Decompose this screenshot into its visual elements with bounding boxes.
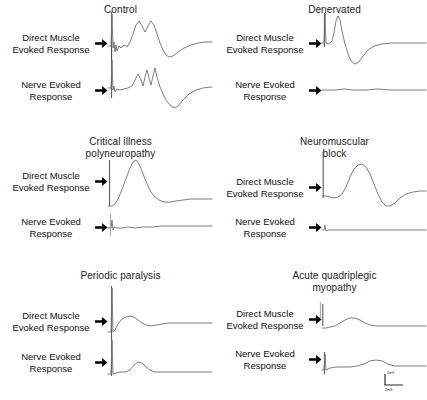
trace-label-direct-muscle: Direct Muscle Evoked Response <box>222 32 308 55</box>
waveform-path <box>322 225 426 231</box>
waveform-path <box>322 89 426 90</box>
waveform-nerve-evoked <box>108 334 213 382</box>
trace-label-nerve-evoked: Nerve Evoked Response <box>222 348 308 371</box>
trace-label-direct-muscle: Direct Muscle Evoked Response <box>8 170 94 193</box>
waveform-path <box>322 318 426 328</box>
right-arrow-icon <box>309 38 322 49</box>
waveform-path <box>108 288 212 332</box>
waveform-direct-muscle <box>108 12 213 64</box>
trace-label-direct-muscle: Direct Muscle Evoked Response <box>222 308 308 331</box>
waveform-path <box>322 164 426 206</box>
trace-label-nerve-evoked: Nerve Evoked Response <box>8 216 94 239</box>
trace-label-direct-muscle: Direct Muscle Evoked Response <box>222 176 308 199</box>
trace-label-direct-muscle: Direct Muscle Evoked Response <box>8 32 94 55</box>
panel-critical-illness-polyneuropathy: Critical illness polyneuropathy Direct M… <box>0 132 213 265</box>
panel-denervated: Denervated Direct Muscle Evoked Response… <box>214 0 427 133</box>
waveform-direct-muscle <box>322 148 427 210</box>
trace-label-nerve-evoked: Nerve Evoked Response <box>222 79 308 102</box>
panel-title: Periodic paralysis <box>0 270 227 282</box>
scale-bar-vertical-label: 2mV <box>387 371 395 375</box>
waveform-path <box>322 354 426 370</box>
waveform-nerve-evoked <box>322 204 427 240</box>
waveform-direct-muscle <box>108 286 213 336</box>
waveform-direct-muscle <box>322 11 427 67</box>
right-arrow-icon <box>95 38 108 49</box>
trace-label-nerve-evoked: Nerve Evoked Response <box>222 216 308 239</box>
right-arrow-icon <box>309 85 322 96</box>
waveform-nerve-evoked <box>322 60 427 100</box>
waveform-nerve-evoked <box>322 330 427 376</box>
waveform-nerve-evoked <box>108 58 213 114</box>
right-arrow-icon <box>95 357 108 368</box>
right-arrow-icon <box>95 222 108 233</box>
figure-root: Control Direct Muscle Evoked Response Ne… <box>0 0 427 400</box>
scale-bar: 2mV 2mS <box>383 371 425 397</box>
trace-label-direct-muscle: Direct Muscle Evoked Response <box>8 310 94 333</box>
panel-neuromuscular-block: Neuromuscular block Direct Muscle Evoked… <box>214 132 427 265</box>
panel-control: Control Direct Muscle Evoked Response Ne… <box>0 0 213 133</box>
right-arrow-icon <box>95 85 108 96</box>
waveform-path <box>108 60 212 108</box>
waveform-path <box>108 14 212 57</box>
right-arrow-icon <box>309 182 322 193</box>
waveform-path <box>108 220 212 230</box>
waveform-path <box>108 340 212 374</box>
right-arrow-icon <box>309 354 322 365</box>
scale-bar-horizontal-label: 2mS <box>385 388 393 392</box>
right-arrow-icon <box>309 222 322 233</box>
trace-label-nerve-evoked: Nerve Evoked Response <box>8 79 94 102</box>
trace-label-nerve-evoked: Nerve Evoked Response <box>8 351 94 374</box>
waveform-nerve-evoked <box>108 200 213 240</box>
right-arrow-icon <box>95 176 108 187</box>
waveform-path <box>322 14 426 64</box>
scale-bar-lines <box>385 374 403 385</box>
right-arrow-icon <box>95 316 108 327</box>
panel-periodic-paralysis: Periodic paralysis Direct Muscle Evoked … <box>0 266 213 399</box>
